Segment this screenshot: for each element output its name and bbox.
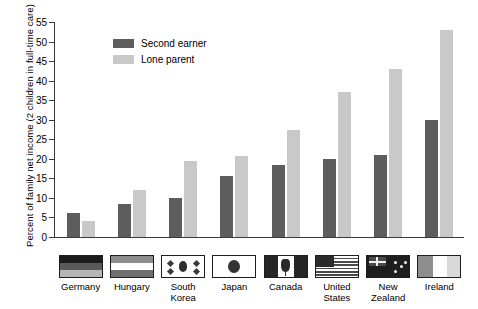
bar <box>374 155 387 237</box>
bar <box>235 156 248 237</box>
y-tick-label: 20 <box>36 153 47 164</box>
maple-leaf-panel <box>278 256 294 277</box>
category-label: Ireland <box>414 282 465 293</box>
category-cell: Ireland <box>414 255 465 293</box>
legend-swatch-icon-second-earner <box>113 39 134 48</box>
flag-stripe <box>60 263 102 270</box>
flag-stripe <box>316 274 358 276</box>
legend-label-lone-parent: Lone parent <box>141 54 194 65</box>
flag-stripe <box>60 270 102 277</box>
bar <box>169 198 182 237</box>
bar <box>67 213 80 237</box>
maple-leaf-stem <box>285 269 287 275</box>
bar <box>220 176 233 237</box>
flag-stripe <box>111 263 153 270</box>
category-label: Japan <box>209 282 260 293</box>
y-tick-label: 15 <box>36 173 47 184</box>
bar <box>184 161 197 237</box>
category-label: Hungary <box>106 282 157 293</box>
legend-swatch-icon-lone-parent <box>113 55 134 64</box>
y-tick-mark <box>49 198 54 199</box>
y-tick-mark <box>49 61 54 62</box>
y-tick-label: 10 <box>36 192 47 203</box>
y-tick-mark <box>49 237 54 238</box>
flag-band <box>418 256 432 277</box>
y-tick-label: 25 <box>36 134 47 145</box>
flag-south-korea-icon <box>161 255 205 278</box>
star-icon <box>394 261 397 264</box>
bar-group <box>220 22 248 237</box>
flag-band <box>447 256 461 277</box>
flag-band <box>265 256 278 277</box>
flag-new-zealand-icon <box>366 255 410 278</box>
bar <box>425 120 438 237</box>
y-tick-mark <box>49 120 54 121</box>
flag-stripe <box>316 271 358 273</box>
bar <box>82 221 95 237</box>
legend: Second earner Lone parent <box>113 36 207 68</box>
y-tick-label: 50 <box>36 36 47 47</box>
bar <box>323 159 336 237</box>
bar-group <box>425 22 453 237</box>
taegeuk-icon <box>179 261 187 271</box>
y-tick-mark <box>49 217 54 218</box>
y-tick-mark <box>49 81 54 82</box>
trigram-icon <box>167 268 174 275</box>
bar-group <box>374 22 402 237</box>
category-cell: South Korea <box>158 255 209 303</box>
flag-germany-icon <box>59 255 103 278</box>
flag-hungary-icon <box>110 255 154 278</box>
category-label: New Zealand <box>363 282 414 303</box>
flag-canada-icon <box>264 255 308 278</box>
category-cell: New Zealand <box>363 255 414 303</box>
y-tick-label: 40 <box>36 75 47 86</box>
y-tick-mark <box>49 100 54 101</box>
bar <box>272 165 285 237</box>
y-tick-label: 45 <box>36 56 47 67</box>
bar <box>389 69 402 237</box>
bar-group <box>272 22 300 237</box>
category-label: United States <box>311 282 362 303</box>
y-axis-line <box>54 22 55 237</box>
flag-stripe <box>111 256 153 263</box>
sun-disc-icon <box>228 260 240 273</box>
category-label: Canada <box>260 282 311 293</box>
y-tick-label: 35 <box>36 95 47 106</box>
y-tick-mark <box>49 139 54 140</box>
flag-united-states-icon <box>315 255 359 278</box>
y-tick-label: 30 <box>36 114 47 125</box>
legend-label-second-earner: Second earner <box>141 38 207 49</box>
y-tick-mark <box>49 22 54 23</box>
x-axis-line <box>54 237 464 238</box>
y-tick-label: 55 <box>36 17 47 28</box>
flag-stripe <box>316 268 358 270</box>
bar <box>338 92 351 237</box>
bar <box>287 130 300 237</box>
trigram-icon <box>167 260 174 267</box>
flag-ireland-icon <box>417 255 461 278</box>
flag-japan-icon <box>212 255 256 278</box>
category-cell: Hungary <box>106 255 157 293</box>
y-tick-mark <box>49 159 54 160</box>
flag-stripe <box>111 270 153 277</box>
y-tick-label: 0 <box>41 232 47 243</box>
category-label: Germany <box>55 282 106 293</box>
y-tick-mark <box>49 42 54 43</box>
legend-item-second-earner: Second earner <box>113 36 207 50</box>
bar-group <box>323 22 351 237</box>
bar-chart: Percent of family net income (2 children… <box>0 0 478 309</box>
bar <box>440 30 453 237</box>
y-axis-title: Percent of family net income (2 children… <box>24 1 35 251</box>
y-tick-mark <box>49 178 54 179</box>
trigram-icon <box>193 260 200 267</box>
flag-band <box>294 256 307 277</box>
trigram-icon <box>193 268 200 275</box>
flag-stripe <box>60 256 102 263</box>
legend-item-lone-parent: Lone parent <box>113 52 207 66</box>
category-cell: Japan <box>209 255 260 293</box>
bar <box>133 190 146 237</box>
category-cell: Germany <box>55 255 106 293</box>
category-label: South Korea <box>158 282 209 303</box>
flag-canton <box>316 256 334 267</box>
category-cell: Canada <box>260 255 311 293</box>
